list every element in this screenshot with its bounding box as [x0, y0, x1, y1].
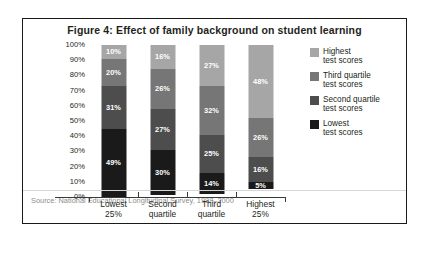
bar-column: 48%26%16%5% [236, 45, 285, 197]
bar-segment-value: 10% [106, 48, 121, 55]
x-axis-tick [89, 197, 90, 202]
legend-label-line: test scores [323, 80, 371, 89]
legend-swatch [310, 48, 319, 57]
legend-label: Third quartiletest scores [323, 71, 371, 90]
bar-segment-value: 30% [155, 169, 170, 176]
y-axis-tick-label: 80% [55, 72, 85, 80]
bar-segment: 27% [199, 45, 224, 86]
bar-segment-value: 48% [253, 78, 268, 85]
bar-segment: 5% [248, 182, 273, 190]
x-axis-category-line: 25% [89, 210, 138, 220]
bar-segment: 27% [150, 109, 175, 150]
figure-container: Figure 4: Effect of family background on… [22, 18, 407, 224]
bar-segment-value: 20% [106, 69, 121, 76]
figure-title: Figure 4: Effect of family background on… [23, 24, 406, 36]
bar-segment-value: 5% [255, 182, 266, 189]
legend-label-line: test scores [323, 128, 363, 137]
x-axis-category-line: quartile [187, 210, 236, 220]
bar-segment-value: 27% [204, 62, 219, 69]
bar-segment: 26% [150, 69, 175, 109]
x-axis-category-line: quartile [138, 210, 187, 220]
plot-area: 100%90%80%70%60%50%40%30%20%10%0% 10%20%… [55, 45, 285, 197]
stacked-bar: 27%32%25%14% [199, 45, 224, 197]
bar-segment: 30% [150, 150, 175, 196]
legend-swatch [310, 120, 319, 129]
y-axis-tick-label: 40% [55, 132, 85, 140]
x-axis-category-label: Secondquartile [138, 200, 187, 220]
bar-segment: 20% [101, 59, 126, 87]
legend-label-line: Second quartile [323, 95, 380, 104]
legend-swatch [310, 72, 319, 81]
bar-segment: 48% [248, 45, 273, 118]
stacked-bar: 10%20%31%49% [101, 45, 126, 197]
bar-segment: 26% [248, 118, 273, 158]
legend-label: Lowesttest scores [323, 119, 363, 138]
bar-segment-value: 31% [106, 104, 121, 111]
bar-segment-value: 27% [155, 126, 170, 133]
legend-label: Highesttest scores [323, 47, 363, 66]
bars-region: 10%20%31%49%16%26%27%30%27%32%25%14%48%2… [89, 45, 285, 197]
source-separator [23, 190, 406, 191]
x-axis-category-label: Highest25% [236, 200, 285, 220]
y-axis-tick-label: 20% [55, 163, 85, 171]
legend-label: Second quartiletest scores [323, 95, 380, 114]
stacked-bar: 48%26%16%5% [248, 45, 273, 197]
bar-segment: 16% [150, 45, 175, 69]
bar-column: 27%32%25%14% [187, 45, 236, 197]
bar-segment-value: 16% [253, 166, 268, 173]
legend-label-line: test scores [323, 56, 363, 65]
y-axis-tick-label: 30% [55, 148, 85, 156]
x-axis-tick [236, 192, 237, 197]
legend-label-line: test scores [323, 104, 380, 113]
legend-label-line: Lowest [323, 119, 363, 128]
y-axis-tick-label: 60% [55, 102, 85, 110]
bar-segment: 31% [101, 86, 126, 129]
y-axis-tick-label: 70% [55, 87, 85, 95]
x-axis-tick [138, 192, 139, 197]
x-axis-tick [285, 197, 286, 202]
bar-column: 10%20%31%49% [89, 45, 138, 197]
bar-segment: 49% [101, 129, 126, 197]
legend-label-line: Highest [323, 47, 363, 56]
stacked-bar: 16%26%27%30% [150, 45, 175, 197]
bar-segment-value: 16% [155, 53, 170, 60]
x-axis-category-label: Thirdquartile [187, 200, 236, 220]
bar-segment-value: 26% [155, 85, 170, 92]
bar-segment: 10% [101, 45, 126, 59]
y-axis-tick-label: 50% [55, 117, 85, 125]
y-axis-tick-label: 10% [55, 178, 85, 186]
legend-item: Lowesttest scores [310, 119, 406, 138]
bar-segment-value: 14% [204, 180, 219, 187]
x-axis-category-label: Lowest25% [89, 200, 138, 220]
bar-segment-value: 32% [204, 107, 219, 114]
x-axis-category-line: 25% [236, 210, 285, 220]
x-axis-tick [187, 192, 188, 197]
legend-label-line: Third quartile [323, 71, 371, 80]
bar-segment: 25% [199, 135, 224, 173]
bar-segment: 16% [248, 157, 273, 181]
chart-legend: Highesttest scoresThird quartiletest sco… [310, 47, 406, 142]
bar-segment: 32% [199, 86, 224, 135]
y-axis-tick-label: 100% [55, 41, 85, 49]
y-axis-tick-label: 90% [55, 56, 85, 64]
bar-column: 16%26%27%30% [138, 45, 187, 197]
bar-segment-value: 49% [106, 159, 121, 166]
y-axis: 100%90%80%70%60%50%40%30%20%10%0% [55, 45, 85, 197]
legend-swatch [310, 96, 319, 105]
bar-segment-value: 26% [253, 134, 268, 141]
legend-item: Highesttest scores [310, 47, 406, 66]
legend-item: Second quartiletest scores [310, 95, 406, 114]
bar-segment-value: 25% [204, 150, 219, 157]
legend-item: Third quartiletest scores [310, 71, 406, 90]
